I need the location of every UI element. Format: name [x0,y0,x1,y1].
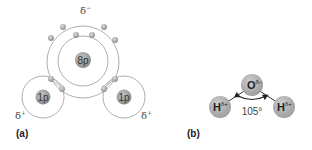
inner-shell-electrons [73,32,95,38]
oxygen-partial-negative-label: δ− [80,4,91,16]
panel-b-bond-angle-model: Oδ− Hδ+ Hδ+ 105° (b) [187,74,295,139]
bond-angle-arc [238,96,266,100]
bond-angle-label: 105° [242,106,263,117]
panel-b-label: (b) [187,128,200,139]
water-molecule-diagram: 8p 1p 1p δ− δ+ δ+ (a [0,0,312,150]
hydrogen-left-nucleus-label: 1p [37,92,49,103]
oxygen-nucleus-label: 8p [77,55,89,66]
hydrogen-right-nucleus-label: 1p [118,92,130,103]
hydrogen-left-partial-positive-label: δ+ [15,109,26,121]
panel-a-electron-shell-model: 8p 1p 1p δ− δ+ δ+ (a [15,4,152,139]
panel-a-label: (a) [16,128,28,139]
hydrogen-right-partial-positive-label: δ+ [141,109,152,121]
